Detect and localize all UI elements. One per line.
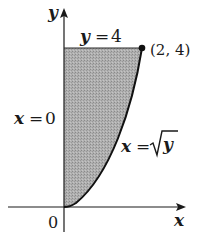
svg-text:=: = — [95, 26, 109, 46]
curve-label: x = y — [120, 131, 178, 156]
top-boundary-label: y = 4 — [79, 26, 122, 46]
x-axis-label: x — [173, 210, 185, 230]
point-marker — [139, 45, 146, 52]
shaded-region — [64, 48, 142, 207]
svg-text:0: 0 — [45, 108, 56, 128]
y-axis-label: y — [47, 2, 59, 22]
region-diagram: y x 0 y = 4 x = 0 x = y (2, 4) — [0, 0, 203, 236]
svg-text:y: y — [162, 134, 174, 154]
svg-text:x: x — [120, 136, 132, 156]
point-label: (2, 4) — [150, 41, 190, 59]
svg-text:y: y — [79, 26, 91, 46]
origin-label: 0 — [48, 213, 58, 232]
svg-text:4: 4 — [111, 26, 122, 46]
svg-text:x: x — [13, 108, 25, 128]
left-boundary-label: x = 0 — [13, 108, 56, 128]
svg-text:=: = — [29, 108, 43, 128]
svg-text:=: = — [136, 136, 150, 156]
